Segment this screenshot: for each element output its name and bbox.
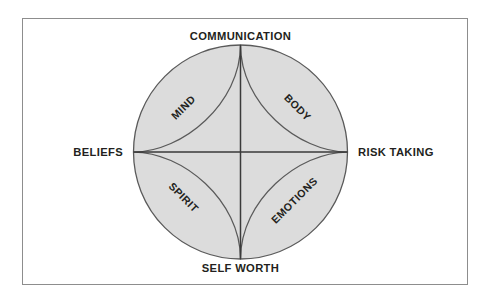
diagram-root: COMMUNICATION RISK TAKING SELF WORTH BEL…	[0, 0, 495, 303]
axis-label-risk-taking: RISK TAKING	[358, 146, 434, 158]
axis-label-communication: COMMUNICATION	[190, 30, 291, 42]
axis-label-self-worth: SELF WORTH	[202, 262, 279, 274]
axis-label-beliefs: BELIEFS	[73, 146, 123, 158]
wheel-diagram-svg: COMMUNICATION RISK TAKING SELF WORTH BEL…	[0, 0, 495, 303]
